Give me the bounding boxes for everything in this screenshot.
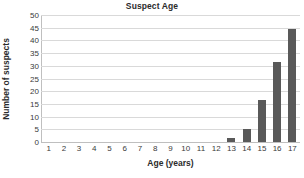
bar-slot xyxy=(239,15,254,142)
x-tick-label: 15 xyxy=(254,144,269,154)
y-tick-label: 45 xyxy=(30,23,39,32)
chart-title: Suspect Age xyxy=(0,1,304,12)
bar-slot xyxy=(254,15,269,142)
y-tick-label: 35 xyxy=(30,49,39,58)
bar-slot xyxy=(148,15,163,142)
bar-slot xyxy=(270,15,285,142)
y-axis-tick-labels: 05101520253035404550 xyxy=(20,15,39,142)
bar-slot xyxy=(193,15,208,142)
y-tick-label: 30 xyxy=(30,61,39,70)
y-tick-label: 20 xyxy=(30,87,39,96)
x-axis-tick-labels: 1234567891011121314151617 xyxy=(41,144,300,154)
bar-slot xyxy=(117,15,132,142)
bar-series xyxy=(41,15,300,142)
bar-slot xyxy=(178,15,193,142)
y-tick-label: 10 xyxy=(30,112,39,121)
x-tick-label: 3 xyxy=(71,144,86,154)
x-tick-label: 6 xyxy=(117,144,132,154)
bar[interactable] xyxy=(227,138,235,142)
x-tick-label: 12 xyxy=(209,144,224,154)
x-tick-label: 8 xyxy=(148,144,163,154)
y-tick-label: 50 xyxy=(30,11,39,20)
bar[interactable] xyxy=(258,100,266,142)
y-axis-title: Number of suspects xyxy=(1,38,11,120)
x-tick-label: 7 xyxy=(132,144,147,154)
bar-slot xyxy=(209,15,224,142)
bar-slot xyxy=(102,15,117,142)
x-tick-label: 2 xyxy=(56,144,71,154)
y-tick-label: 40 xyxy=(30,36,39,45)
bar-slot xyxy=(71,15,86,142)
y-tick-label: 0 xyxy=(35,138,39,147)
x-tick-label: 4 xyxy=(87,144,102,154)
bar-slot xyxy=(41,15,56,142)
x-tick-label: 16 xyxy=(270,144,285,154)
y-tick-label: 25 xyxy=(30,74,39,83)
bar-slot xyxy=(224,15,239,142)
x-tick-label: 5 xyxy=(102,144,117,154)
y-axis-title-container: Number of suspects xyxy=(0,15,12,142)
x-axis-title: Age (years) xyxy=(41,158,300,169)
bar[interactable] xyxy=(243,129,251,142)
y-tick-label: 5 xyxy=(35,125,39,134)
x-tick-label: 17 xyxy=(285,144,300,154)
bar-slot xyxy=(87,15,102,142)
x-tick-label: 13 xyxy=(224,144,239,154)
axis-baseline xyxy=(41,142,300,143)
bar-slot xyxy=(163,15,178,142)
x-tick-label: 9 xyxy=(163,144,178,154)
plot-area xyxy=(41,15,300,142)
bar-slot xyxy=(132,15,147,142)
y-tick-label: 15 xyxy=(30,99,39,108)
bar-slot xyxy=(56,15,71,142)
bar[interactable] xyxy=(273,62,281,142)
x-tick-label: 14 xyxy=(239,144,254,154)
bar-slot xyxy=(285,15,300,142)
bar[interactable] xyxy=(288,29,296,142)
x-tick-label: 11 xyxy=(193,144,208,154)
suspect-age-bar-chart: Suspect Age Number of suspects 051015202… xyxy=(0,0,304,178)
x-tick-label: 1 xyxy=(41,144,56,154)
x-tick-label: 10 xyxy=(178,144,193,154)
